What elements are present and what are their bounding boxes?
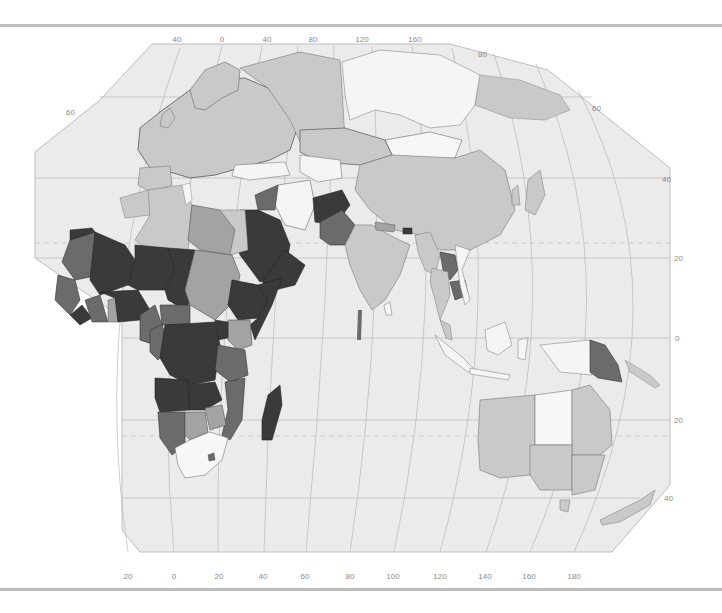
right-lat-label: 40 xyxy=(662,175,671,184)
right-lat-label: 60 xyxy=(592,104,601,113)
bottom-lon-label: 180 xyxy=(567,572,580,581)
right-lat-label: 40 xyxy=(664,494,673,503)
region-western-australia xyxy=(478,395,535,478)
region-northern-territory xyxy=(535,390,572,445)
right-lat-label: 80 xyxy=(478,50,487,59)
bottom-lon-label: 100 xyxy=(386,572,399,581)
top-lon-label: 160 xyxy=(408,35,421,44)
bottom-lon-label: 0 xyxy=(172,572,176,581)
region-angola xyxy=(155,378,190,412)
bottom-lon-label: 20 xyxy=(124,572,133,581)
region-tasmania xyxy=(560,500,570,512)
bottom-lon-label: 60 xyxy=(301,572,310,581)
right-lat-label: 20 xyxy=(674,416,683,425)
region-car xyxy=(160,305,190,325)
bottom-lon-label: 20 xyxy=(215,572,224,581)
bottom-lon-label: 80 xyxy=(346,572,355,581)
bottom-lon-label: 120 xyxy=(433,572,446,581)
region-south-australia xyxy=(530,445,572,490)
top-lon-label: 40 xyxy=(173,35,182,44)
bottom-lon-label: 140 xyxy=(478,572,491,581)
top-lon-label: 120 xyxy=(355,35,368,44)
top-lon-label: 40 xyxy=(263,35,272,44)
top-lon-label: 80 xyxy=(309,35,318,44)
top-lon-label: 0 xyxy=(220,35,224,44)
bottom-lon-label: 160 xyxy=(522,572,535,581)
region-bhutan xyxy=(403,228,412,234)
region-niger xyxy=(128,245,175,290)
world-map xyxy=(0,0,722,613)
left-lat-label: 60 xyxy=(66,108,75,117)
right-lat-label: 20 xyxy=(674,254,683,263)
right-lat-label: 0 xyxy=(675,334,679,343)
bottom-lon-label: 40 xyxy=(259,572,268,581)
